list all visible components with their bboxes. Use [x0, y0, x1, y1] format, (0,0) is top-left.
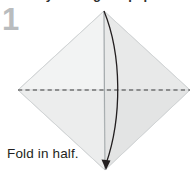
origami-step-diagram: Start by folding the paper in half diago…: [0, 0, 194, 171]
step-caption: Fold in half.: [7, 146, 79, 161]
